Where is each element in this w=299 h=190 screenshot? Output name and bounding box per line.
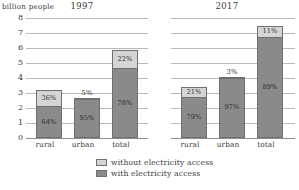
segment-without-electricity: 11%: [257, 26, 283, 38]
segment-label: 95%: [80, 115, 95, 122]
x-label-1997-rural: rural: [28, 140, 62, 149]
panel-title-1997: 1997: [47, 1, 117, 11]
plot-area-1997: 8 7 6 5 4 3 2 1 0 36% 64% 5% 95%: [26, 18, 148, 138]
y-tick-0: 0: [18, 134, 23, 142]
bar-1997-urban[interactable]: 5% 95%: [74, 98, 100, 139]
segment-label: 89%: [263, 84, 278, 91]
bar-1997-rural[interactable]: 36% 64%: [36, 90, 62, 138]
gridline-8: [171, 18, 295, 19]
y-tick-3: 3: [18, 89, 23, 97]
bar-1997-total[interactable]: 22% 78%: [112, 50, 138, 139]
y-tick-8: 8: [18, 14, 23, 22]
y-tick-5: 5: [18, 59, 23, 67]
legend-swatch-icon: [96, 159, 107, 166]
x-label-2017-total: total: [249, 140, 283, 149]
chart-container: billion people 1997 2017 8 7 6 5 4 3 2 1…: [0, 0, 299, 190]
segment-label: 3%: [227, 69, 238, 76]
segment-with-electricity: 95%: [74, 100, 100, 139]
x-label-1997-urban: urban: [66, 140, 100, 149]
y-tick-4: 4: [18, 74, 23, 82]
gridline-7: 7: [26, 33, 148, 34]
segment-without-electricity: 22%: [112, 50, 138, 70]
plot-area-2017: 21% 79% 3% 97% 11% 89%: [171, 18, 295, 138]
legend-label: without electricity access: [111, 159, 213, 167]
segment-label: 79%: [187, 114, 202, 121]
y-tick-1: 1: [18, 119, 23, 127]
segment-with-electricity: 78%: [112, 69, 138, 138]
panel-title-2017: 2017: [192, 1, 262, 11]
segment-with-electricity: 97%: [219, 79, 245, 139]
legend-label: with electricity access: [111, 170, 200, 178]
legend-item-with-electricity: with electricity access: [96, 169, 213, 178]
segment-label: 97%: [225, 104, 240, 111]
y-tick-2: 2: [18, 104, 23, 112]
bar-2017-total[interactable]: 11% 89%: [257, 26, 283, 139]
legend-swatch-icon: [96, 170, 107, 177]
segment-with-electricity: 79%: [181, 98, 207, 139]
x-label-1997-total: total: [104, 140, 138, 149]
segment-label: 11%: [263, 28, 278, 35]
y-tick-7: 7: [18, 29, 23, 37]
chart-legend: without electricity access with electric…: [96, 158, 213, 178]
segment-label: 64%: [42, 119, 57, 126]
gridline-0: [171, 138, 295, 139]
gridline-8: 8: [26, 18, 148, 19]
segment-label: 36%: [42, 95, 57, 102]
segment-without-electricity: 21%: [181, 87, 207, 98]
legend-item-without-electricity: without electricity access: [96, 158, 213, 167]
segment-label: 78%: [118, 100, 133, 107]
segment-with-electricity: 89%: [257, 38, 283, 139]
x-label-2017-rural: rural: [173, 140, 207, 149]
bar-2017-urban[interactable]: 3% 97%: [219, 77, 245, 139]
segment-without-electricity: 36%: [36, 90, 62, 107]
x-label-2017-urban: urban: [211, 140, 245, 149]
segment-with-electricity: 64%: [36, 107, 62, 138]
y-tick-6: 6: [18, 44, 23, 52]
gridline-0: 0: [26, 138, 148, 139]
segment-label: 5%: [82, 90, 93, 97]
bar-2017-rural[interactable]: 21% 79%: [181, 87, 207, 138]
segment-label: 22%: [118, 56, 133, 63]
segment-label: 21%: [187, 89, 202, 96]
